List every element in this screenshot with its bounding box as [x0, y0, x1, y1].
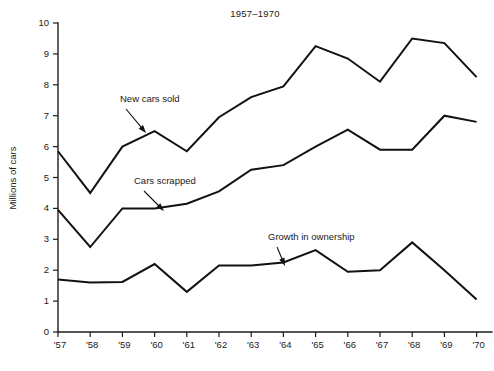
x-tick-label: '68: [408, 339, 420, 350]
x-tick-label: '70: [472, 339, 484, 350]
annotation-arrow-line: [277, 247, 283, 260]
x-tick-label: '58: [86, 339, 98, 350]
x-axis-ticks: '57'58'59'60'61'62'63'64'65'66'67'68'69'…: [54, 332, 485, 350]
x-tick-label: '65: [311, 339, 323, 350]
annotation-label: Cars scrapped: [134, 175, 196, 186]
y-tick-label: 3: [44, 233, 49, 244]
x-tick-label: '62: [215, 339, 227, 350]
x-tick-label: '64: [279, 339, 291, 350]
series-line-growth-in-ownership: [58, 242, 477, 299]
x-tick-label: '63: [247, 339, 259, 350]
y-tick-label: 2: [44, 264, 49, 275]
x-tick-label: '67: [376, 339, 388, 350]
y-tick-label: 1: [44, 295, 49, 306]
annotation-arrow-line: [126, 109, 142, 128]
y-axis-title-group: Millions of cars: [7, 146, 18, 209]
y-tick-label: 8: [44, 79, 49, 90]
annotation-label: New cars sold: [120, 93, 180, 104]
x-tick-label: '61: [183, 339, 195, 350]
x-tick-label: '69: [440, 339, 452, 350]
y-tick-label: 7: [44, 110, 49, 121]
chart-title: 1957–1970: [230, 8, 279, 19]
axes-group: [58, 23, 492, 332]
y-axis-ticks: 012345678910: [38, 17, 58, 337]
y-tick-label: 0: [44, 326, 49, 337]
y-tick-label: 10: [38, 17, 49, 28]
series-line-new-cars-sold: [58, 38, 477, 193]
series-line-cars-scrapped: [58, 116, 477, 247]
y-tick-label: 6: [44, 141, 49, 152]
y-tick-label: 9: [44, 48, 49, 59]
y-tick-label: 5: [44, 172, 49, 183]
x-tick-label: '66: [344, 339, 356, 350]
y-axis-title: Millions of cars: [7, 146, 18, 209]
x-tick-label: '59: [118, 339, 130, 350]
line-chart: 1957–1970 012345678910 '57'58'59'60'61'6…: [0, 0, 494, 371]
chart-title-group: 1957–1970: [230, 8, 279, 19]
series-group: [58, 38, 477, 299]
x-tick-label: '60: [150, 339, 162, 350]
annotation-arrow-head: [279, 258, 285, 266]
chart-figure: 1957–1970 012345678910 '57'58'59'60'61'6…: [0, 0, 494, 371]
x-tick-label: '57: [54, 339, 66, 350]
annotation-arrow-line: [144, 191, 160, 207]
y-tick-label: 4: [44, 202, 49, 213]
annotation-label: Growth in ownership: [268, 231, 355, 242]
